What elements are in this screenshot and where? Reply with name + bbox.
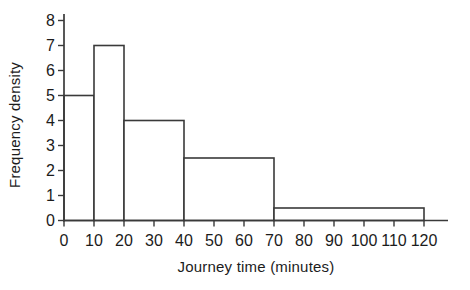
y-tick-label: 1 [46,187,55,204]
histogram-figure: 0102030405060708090100110120012345678 Jo… [0,0,470,290]
y-tick-label: 8 [46,12,55,29]
x-tick-label: 10 [85,232,103,249]
x-tick-label: 20 [115,232,133,249]
y-tick-label: 7 [46,37,55,54]
x-tick-label: 50 [205,232,223,249]
histogram-bar [94,46,124,221]
x-tick-label: 120 [411,232,438,249]
x-tick-label: 80 [295,232,313,249]
y-tick-label: 2 [46,162,55,179]
y-tick-label: 0 [46,212,55,229]
histogram-bar [64,96,94,221]
y-tick-label: 5 [46,87,55,104]
x-tick-label: 40 [175,232,193,249]
x-axis-title: Journey time (minutes) [178,258,335,275]
histogram-bar [274,208,424,221]
y-tick-label: 3 [46,137,55,154]
x-tick-label: 100 [351,232,378,249]
y-tick-label: 6 [46,62,55,79]
histogram-bar [184,158,274,221]
histogram-bar [124,121,184,221]
y-axis-title: Frequency density [6,62,23,188]
x-tick-label: 30 [145,232,163,249]
bars-group [64,46,424,221]
x-tick-label: 70 [265,232,283,249]
x-tick-label: 90 [325,232,343,249]
x-tick-label: 60 [235,232,253,249]
x-tick-label: 0 [60,232,69,249]
x-tick-label: 110 [381,232,407,249]
y-tick-label: 4 [46,112,55,129]
histogram-canvas: 0102030405060708090100110120012345678 Jo… [0,0,470,290]
page: 0102030405060708090100110120012345678 Jo… [0,0,470,290]
